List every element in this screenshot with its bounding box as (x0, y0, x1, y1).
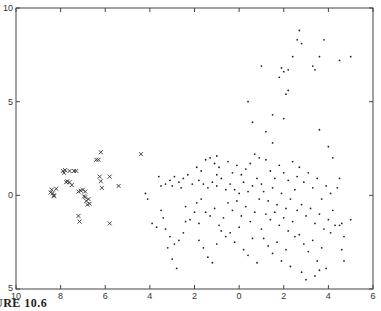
dot-marker (341, 223, 343, 225)
dot-marker (301, 43, 303, 45)
dot-marker (281, 193, 283, 195)
dot-marker (254, 211, 256, 213)
dot-marker (314, 223, 316, 225)
x-marker (100, 186, 104, 190)
dot-marker (247, 254, 249, 256)
dot-marker (343, 236, 345, 238)
dot-marker (265, 159, 267, 161)
dot-marker (200, 170, 202, 172)
dot-marker (301, 271, 303, 273)
dot-marker (158, 176, 160, 178)
x-marker (99, 150, 103, 154)
dot-marker (220, 230, 222, 232)
dot-marker (316, 178, 318, 180)
dot-marker (194, 211, 196, 213)
dot-marker (332, 209, 334, 211)
dot-marker (236, 164, 238, 166)
dot-marker (236, 200, 238, 202)
dot-marker (285, 249, 287, 251)
dot-marker (171, 185, 173, 187)
figure-caption: URE 10.6 (0, 296, 47, 311)
dot-marker (198, 179, 200, 181)
dot-marker (305, 215, 307, 217)
y-tick-label: 5 (8, 283, 13, 293)
dot-marker (169, 236, 171, 238)
x-marker (54, 187, 58, 191)
dot-marker (162, 217, 164, 219)
x-marker (78, 220, 82, 224)
dot-marker (339, 60, 341, 62)
dot-marker (314, 69, 316, 71)
dot-marker (307, 251, 309, 253)
dot-marker (180, 187, 182, 189)
dot-marker (263, 238, 265, 240)
dot-marker (216, 243, 218, 245)
x-marker (74, 169, 78, 173)
dot-marker (287, 230, 289, 232)
dot-marker (214, 208, 216, 210)
x-tick-label: 0 (237, 291, 242, 301)
dot-marker (220, 178, 222, 180)
dot-marker (307, 172, 309, 174)
dot-marker (272, 253, 274, 255)
dot-marker (305, 279, 307, 281)
dot-marker (227, 202, 229, 204)
dot-marker (256, 262, 258, 264)
y-tick-label: 10 (3, 3, 13, 13)
dot-marker (205, 211, 207, 213)
dot-marker (350, 219, 352, 221)
dot-marker (218, 166, 220, 168)
dot-marker (334, 224, 336, 226)
dot-marker (283, 118, 285, 120)
x-marker (139, 152, 143, 156)
dot-marker (292, 221, 294, 223)
dot-marker (238, 226, 240, 228)
dot-marker (247, 191, 249, 193)
dot-marker (245, 206, 247, 208)
dot-marker (178, 239, 180, 241)
x-marker (83, 190, 87, 194)
dot-marker (332, 157, 334, 159)
dot-marker (227, 161, 229, 163)
dot-marker (209, 215, 211, 217)
x-tick-label: 4 (326, 291, 331, 301)
dot-marker (281, 260, 283, 262)
dot-marker (278, 224, 280, 226)
dot-marker (314, 275, 316, 277)
dot-marker (165, 183, 167, 185)
dot-marker (285, 208, 287, 210)
dot-marker (225, 189, 227, 191)
dot-marker (269, 170, 271, 172)
dot-marker (207, 187, 209, 189)
dot-marker (254, 153, 256, 155)
dot-marker (261, 65, 263, 67)
dot-marker (339, 224, 341, 226)
dot-marker (169, 179, 171, 181)
dot-marker (145, 193, 147, 195)
dot-marker (319, 213, 321, 215)
dot-marker (207, 256, 209, 258)
dot-marker (274, 178, 276, 180)
dot-marker (298, 234, 300, 236)
dot-marker (196, 202, 198, 204)
dot-marker (216, 174, 218, 176)
dot-marker (287, 179, 289, 181)
dot-marker (171, 258, 173, 260)
dot-marker (229, 232, 231, 234)
data-points (49, 30, 352, 281)
dot-marker (278, 164, 280, 166)
x-marker (108, 175, 112, 179)
dot-marker (232, 172, 234, 174)
dot-marker (292, 161, 294, 163)
dot-marker (252, 121, 254, 123)
dot-marker (243, 181, 245, 183)
dot-marker (258, 198, 260, 200)
dot-marker (258, 157, 260, 159)
dot-marker (187, 174, 189, 176)
dot-marker (252, 185, 254, 187)
dot-marker (330, 193, 332, 195)
dot-marker (287, 90, 289, 92)
dot-marker (319, 129, 321, 131)
x-marker (99, 179, 103, 183)
axis-ticks: 108642024610505 (3, 3, 376, 301)
